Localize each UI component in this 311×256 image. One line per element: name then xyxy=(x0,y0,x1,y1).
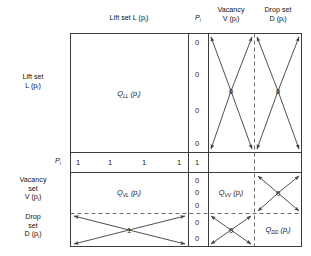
value-lift-drop: 0 xyxy=(276,87,280,96)
value-lift-vacancy: 0 xyxy=(229,87,233,96)
pi-column-lift-3: 0 xyxy=(195,139,199,148)
block-label-qdd: QDD (pi) xyxy=(265,225,290,234)
pi-column-vacancy-0: 0 xyxy=(195,176,199,185)
value-drop-lift: 1 xyxy=(127,226,131,235)
pi-column-vacancy-2: 0 xyxy=(195,201,199,210)
value-drop-vacancy: 0 xyxy=(229,226,233,235)
pi-column-drop-1: 0 xyxy=(195,234,199,243)
pi-column-vacancy-1: 0 xyxy=(195,188,199,197)
pi-column-drop-0: 0 xyxy=(195,218,199,227)
block-label-qvv: QVV (pi) xyxy=(219,188,244,197)
diagram-canvas: Lift set L (pi) Pi Vacancy V (pi) Drop s… xyxy=(0,0,311,256)
block-label-qvl: QVL (pi) xyxy=(117,188,141,197)
pi-row-entry-2: 1 xyxy=(142,158,146,167)
dashed-partition-lines xyxy=(71,34,302,247)
pi-column-lift-0: 0 xyxy=(195,38,199,47)
pi-row-entry-0: 1 xyxy=(76,158,80,167)
pi-column-lift-2: 0 xyxy=(195,106,199,115)
matrix-grid xyxy=(0,0,311,256)
pi-row-pi-cell: 1 xyxy=(195,158,199,167)
pi-row-entry-1: 1 xyxy=(108,158,112,167)
value-vacancy-drop: 0 xyxy=(276,189,280,198)
pi-column-lift-1: 0 xyxy=(195,70,199,79)
grid-lines xyxy=(71,34,302,247)
block-label-qll: QLL (pi) xyxy=(117,89,141,98)
pi-row-entry-3: 1 xyxy=(177,158,181,167)
